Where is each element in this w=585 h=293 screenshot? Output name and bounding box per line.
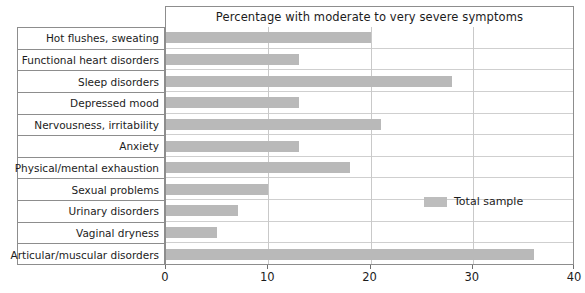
- bar-chart: Percentage with moderate to very severe …: [0, 0, 585, 293]
- bar: [166, 227, 217, 238]
- bar: [166, 76, 452, 87]
- category-label: Urinary disorders: [18, 201, 164, 223]
- category-label: Articular/muscular disorders: [18, 244, 164, 266]
- category-label-column: Hot flushes, sweatingFunctional heart di…: [17, 27, 165, 265]
- x-tick-label: 40: [567, 270, 582, 284]
- category-label: Sexual problems: [18, 179, 164, 201]
- x-tick-label: 20: [362, 270, 377, 284]
- bar: [166, 32, 371, 43]
- bar: [166, 184, 268, 195]
- x-tick-mark: [267, 265, 268, 269]
- bar: [166, 141, 299, 152]
- category-label: Sleep disorders: [18, 71, 164, 93]
- bar: [166, 162, 350, 173]
- x-tick-mark: [573, 265, 574, 269]
- gridline: [473, 27, 474, 264]
- x-tick-mark: [472, 265, 473, 269]
- bar: [166, 249, 534, 260]
- category-label: Nervousness, irritability: [18, 115, 164, 137]
- category-label: Depressed mood: [18, 93, 164, 115]
- legend-label-total-sample: Total sample: [454, 195, 523, 208]
- x-axis: 010203040: [165, 265, 574, 291]
- category-label: Anxiety: [18, 136, 164, 158]
- x-tick-label: 10: [260, 270, 275, 284]
- category-label: Vaginal dryness: [18, 223, 164, 245]
- category-label: Physical/mental exhaustion: [18, 158, 164, 180]
- gridline: [371, 27, 372, 264]
- legend-swatch-total-sample: [424, 197, 447, 207]
- chart-legend: Total sample: [424, 195, 523, 208]
- category-label: Functional heart disorders: [18, 50, 164, 72]
- x-tick-mark: [165, 265, 166, 269]
- x-tick-label: 0: [161, 270, 168, 284]
- category-label: Hot flushes, sweating: [18, 28, 164, 50]
- chart-title-band: Percentage with moderate to very severe …: [165, 6, 574, 27]
- x-tick-label: 30: [464, 270, 479, 284]
- chart-title: Percentage with moderate to very severe …: [216, 10, 523, 24]
- x-tick-mark: [370, 265, 371, 269]
- bar: [166, 119, 381, 130]
- bar: [166, 54, 299, 65]
- bar: [166, 205, 238, 216]
- plot-row: [166, 222, 573, 244]
- bar: [166, 97, 299, 108]
- plot-area: [165, 27, 574, 265]
